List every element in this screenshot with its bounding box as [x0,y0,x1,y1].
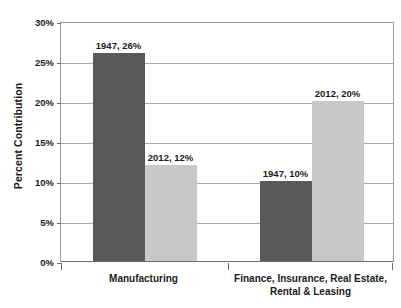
y-axis-tick-mark [57,143,61,144]
category-label: Finance, Insurance, Real Estate,Rental &… [216,272,401,298]
data-label: 1947, 26% [95,40,142,51]
data-label: 2012, 12% [147,152,194,163]
data-label: 1947, 10% [262,168,309,179]
y-axis-tick-mark [57,183,61,184]
axis-right-tick [392,263,393,270]
y-axis-tick-label: 0% [20,257,54,268]
y-axis-tick-mark [57,263,61,264]
category-label-line: Rental & Leasing [216,285,401,298]
category-label-line: Finance, Insurance, Real Estate, [216,272,401,285]
bar-chart: Percent Contribution 0%5%10%15%20%25%30%… [0,0,401,308]
y-axis-tick-label: 15% [20,137,54,148]
y-axis-tick-label: 10% [20,177,54,188]
y-axis-tick-label: 25% [20,57,54,68]
category-label: Manufacturing [49,272,239,285]
y-axis-tick-mark [57,23,61,24]
y-axis-tick-mark [57,63,61,64]
category-separator-tick [228,263,229,270]
axis-left-tick [61,263,62,270]
y-axis-tick-label: 20% [20,97,54,108]
data-label: 2012, 20% [314,88,361,99]
bar-1947-0[interactable] [93,53,145,261]
bar-2012-0[interactable] [145,165,197,261]
plot-area: 1947, 26%2012, 12%1947, 10%2012, 20% [60,22,394,262]
bar-1947-1[interactable] [260,181,312,261]
y-axis-tick-labels: 0%5%10%15%20%25%30% [20,22,54,262]
bar-2012-1[interactable] [312,101,364,261]
category-label-line: Manufacturing [49,272,239,285]
y-axis-tick-mark [57,223,61,224]
y-axis-tick-label: 30% [20,17,54,28]
y-axis-tick-mark [57,103,61,104]
x-axis-baseline [61,261,393,262]
y-axis-tick-label: 5% [20,217,54,228]
